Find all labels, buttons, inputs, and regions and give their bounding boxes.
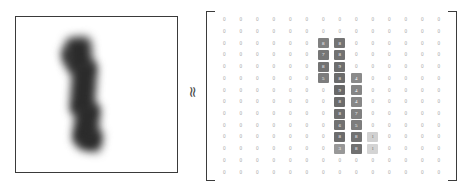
- matrix-cell-box: 0: [367, 97, 378, 107]
- matrix-cell-zero: 0: [282, 96, 299, 108]
- matrix-cell-box: 0: [384, 85, 395, 95]
- matrix-cell-box: 0: [268, 155, 279, 165]
- matrix-cell-zero: 0: [348, 37, 365, 49]
- matrix-cell-box: 0: [384, 50, 395, 60]
- matrix-cell-zero: 0: [414, 49, 431, 61]
- matrix-cell-zero: 0: [315, 143, 332, 155]
- matrix-cell-box: 0: [351, 155, 362, 165]
- matrix-cell-zero: 0: [365, 166, 382, 178]
- matrix-cell-zero: 0: [216, 166, 233, 178]
- matrix-cell-zero: 0: [381, 14, 398, 26]
- matrix-cell-value: 8: [348, 143, 365, 155]
- matrix-cell-box: 0: [367, 62, 378, 72]
- matrix-cell-zero: 0: [381, 131, 398, 143]
- matrix-cell-zero: 0: [299, 143, 316, 155]
- matrix-cell-zero: 0: [216, 119, 233, 131]
- matrix-cell-zero: 0: [233, 108, 250, 120]
- matrix-cell-box: 0: [219, 50, 230, 60]
- matrix-cell-box: 0: [235, 167, 246, 177]
- matrix-cell-zero: 0: [216, 14, 233, 26]
- matrix-cell-zero: 0: [431, 73, 448, 85]
- matrix-cell-box: 0: [334, 15, 345, 25]
- matrix-cell-value: 8: [332, 131, 349, 143]
- matrix-cell-box: 0: [285, 97, 296, 107]
- matrix-cell-zero: 0: [315, 26, 332, 38]
- matrix-cell-box: 0: [417, 50, 428, 60]
- matrix-cell-value: 3: [332, 143, 349, 155]
- matrix-cell-zero: 0: [282, 155, 299, 167]
- matrix-cell-zero: 0: [315, 14, 332, 26]
- matrix-cell-zero: 0: [249, 37, 266, 49]
- matrix-bracket-right: [448, 11, 457, 181]
- matrix-cell-box: 7: [318, 50, 329, 60]
- matrix-cell-box: 0: [351, 38, 362, 48]
- matrix-cell-box: 0: [268, 27, 279, 37]
- matrix-cell-box: 0: [384, 120, 395, 130]
- matrix-cell-zero: 0: [431, 131, 448, 143]
- matrix-cell-zero: 0: [266, 37, 283, 49]
- matrix-cell-value: 8: [332, 96, 349, 108]
- matrix-cell-zero: 0: [216, 143, 233, 155]
- matrix-cell-zero: 0: [365, 84, 382, 96]
- matrix-cell-value: 7: [315, 49, 332, 61]
- matrix-cell-box: 0: [285, 73, 296, 83]
- matrix-cell-zero: 0: [299, 108, 316, 120]
- matrix-cell-zero: 0: [381, 49, 398, 61]
- matrix-cell-value: 7: [348, 108, 365, 120]
- matrix-cell-zero: 0: [299, 14, 316, 26]
- matrix-cell-zero: 0: [282, 108, 299, 120]
- matrix-cell-zero: 0: [282, 14, 299, 26]
- matrix-cell-box: 0: [268, 120, 279, 130]
- matrix-cell-box: 8: [334, 73, 345, 83]
- matrix-cell-box: 0: [367, 120, 378, 130]
- matrix-cell-zero: 0: [299, 61, 316, 73]
- matrix-cell-zero: 0: [315, 108, 332, 120]
- matrix-cell-zero: 0: [398, 26, 415, 38]
- matrix-cell-zero: 0: [266, 143, 283, 155]
- matrix-cell-zero: 0: [216, 155, 233, 167]
- matrix-cell-zero: 0: [431, 14, 448, 26]
- matrix-cell-zero: 0: [414, 26, 431, 38]
- matrix-cell-box: 0: [417, 85, 428, 95]
- matrix-cell-zero: 0: [266, 84, 283, 96]
- matrix-cell-zero: 0: [431, 143, 448, 155]
- matrix-cell-zero: 0: [414, 84, 431, 96]
- matrix-cell-box: 0: [384, 144, 395, 154]
- matrix-cell-box: 0: [417, 120, 428, 130]
- matrix-cell-box: 0: [252, 73, 263, 83]
- matrix-cell-zero: 0: [216, 73, 233, 85]
- matrix-cell-box: 0: [268, 85, 279, 95]
- matrix-cell-zero: 0: [398, 119, 415, 131]
- matrix-cell-value: 8: [332, 108, 349, 120]
- matrix-cell-box: 0: [400, 15, 411, 25]
- matrix-cell-zero: 0: [348, 166, 365, 178]
- matrix-cell-zero: 0: [332, 14, 349, 26]
- matrix-cell-zero: 0: [398, 143, 415, 155]
- matrix-cell-box: 0: [301, 97, 312, 107]
- matrix-cell-box: 0: [301, 38, 312, 48]
- matrix-cell-box: 0: [235, 109, 246, 119]
- matrix-cell-box: 0: [417, 144, 428, 154]
- matrix-cell-box: 0: [219, 85, 230, 95]
- matrix-cell-zero: 0: [216, 96, 233, 108]
- matrix-cell-box: 0: [235, 15, 246, 25]
- matrix-cell-zero: 0: [398, 14, 415, 26]
- matrix-cell-box: 0: [301, 15, 312, 25]
- matrix-cell-value: 4: [348, 96, 365, 108]
- matrix-cell-box: 0: [400, 50, 411, 60]
- matrix-cell-zero: 0: [233, 143, 250, 155]
- matrix-cell-box: 8: [334, 97, 345, 107]
- matrix-cell-zero: 0: [414, 155, 431, 167]
- matrix-cell-box: 1: [367, 132, 378, 142]
- matrix-cell-zero: 0: [414, 131, 431, 143]
- matrix-cell-box: 0: [252, 62, 263, 72]
- matrix-cell-box: 0: [235, 62, 246, 72]
- matrix-cell-zero: 0: [266, 166, 283, 178]
- matrix-cell-box: 0: [417, 97, 428, 107]
- matrix-cell-box: 0: [268, 109, 279, 119]
- matrix-cell-box: 0: [252, 38, 263, 48]
- matrix-cell-box: 0: [285, 167, 296, 177]
- matrix-cell-value: 5: [315, 73, 332, 85]
- matrix-cell-box: 0: [433, 155, 444, 165]
- matrix-cell-box: 0: [268, 50, 279, 60]
